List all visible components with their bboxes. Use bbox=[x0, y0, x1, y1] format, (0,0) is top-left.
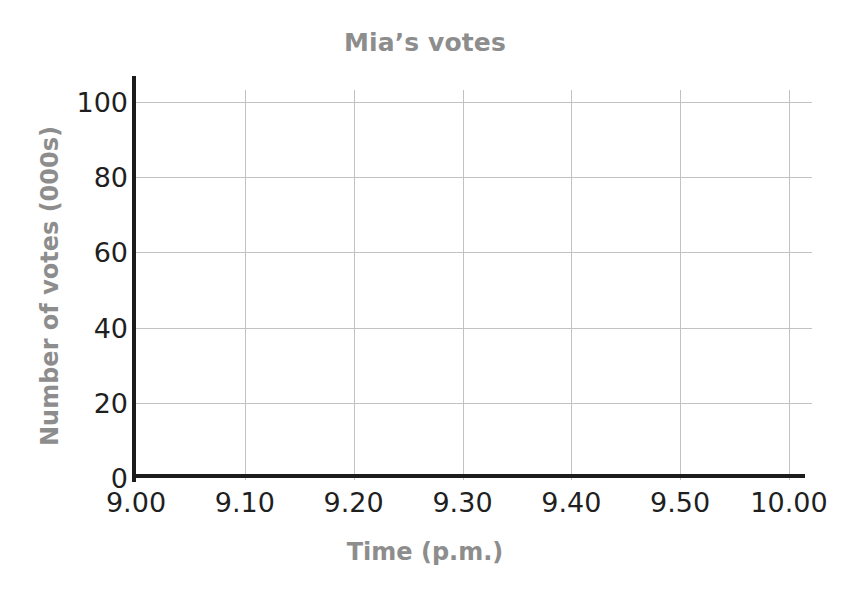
chart-figure: Mia’s votes 020406080100 9.009.109.209.3… bbox=[0, 0, 850, 600]
gridline-vertical bbox=[789, 90, 790, 480]
y-axis-line bbox=[132, 76, 136, 482]
gridline-horizontal bbox=[136, 328, 812, 329]
plot-area bbox=[136, 102, 789, 478]
gridline-vertical bbox=[354, 90, 355, 480]
x-axis-tick-labels: 9.009.109.209.309.409.5010.00 bbox=[0, 489, 850, 529]
gridline-horizontal bbox=[136, 102, 812, 103]
gridline-vertical bbox=[680, 90, 681, 480]
y-axis-title: Number of votes (000s) bbox=[36, 106, 64, 466]
x-axis-line bbox=[132, 474, 805, 478]
x-axis-tick-label: 10.00 bbox=[709, 489, 850, 516]
gridline-horizontal bbox=[136, 403, 812, 404]
gridline-vertical bbox=[463, 90, 464, 480]
gridline-vertical bbox=[571, 90, 572, 480]
x-axis-title: Time (p.m.) bbox=[0, 538, 850, 566]
gridline-horizontal bbox=[136, 252, 812, 253]
gridline-vertical bbox=[245, 90, 246, 480]
gridline-horizontal bbox=[136, 177, 812, 178]
